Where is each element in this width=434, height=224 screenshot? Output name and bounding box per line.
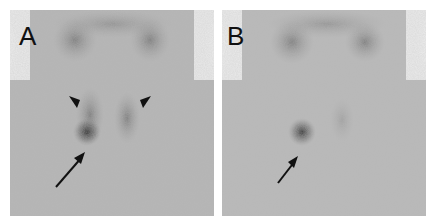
panel-label-b: B: [227, 23, 244, 49]
scan-panel-a: A: [10, 10, 214, 216]
panel-label-a: A: [19, 23, 36, 49]
scan-image-a: [10, 10, 214, 216]
scan-panel-b: B: [222, 10, 426, 216]
scan-image-b: [222, 10, 426, 216]
